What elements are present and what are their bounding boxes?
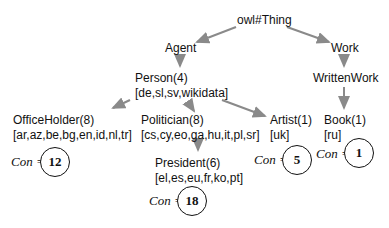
node-writtenwork: WrittenWork — [313, 71, 379, 85]
ontology-diagram: owl#Thing Agent Work Person(4) [de,sl,sv… — [0, 0, 389, 228]
node-artist-langs: [uk] — [270, 128, 289, 142]
edge-person-artist — [222, 100, 265, 116]
edge-person-officeholder — [113, 100, 130, 108]
node-president: President(6) — [155, 156, 220, 170]
node-work: Work — [331, 41, 359, 55]
node-politician-langs: [cs,cy,eo,ga,hu,it,pl,sr] — [141, 128, 260, 142]
node-person: Person(4) — [135, 71, 188, 85]
node-officeholder-langs: [ar,az,be,bg,en,id,nl,tr] — [13, 128, 132, 142]
node-person-langs: [de,sl,sv,wikidata] — [135, 86, 228, 100]
edge-thing-work — [287, 27, 329, 42]
node-owl-thing: owl#Thing — [237, 13, 292, 27]
con-value-book: 1 — [344, 138, 374, 168]
node-artist: Artist(1) — [270, 113, 312, 127]
node-politician: Politician(8) — [141, 113, 204, 127]
node-agent: Agent — [165, 41, 196, 55]
con-value-artist: 5 — [282, 145, 312, 175]
con-value-officeholder: 12 — [40, 147, 70, 177]
node-officeholder: OfficeHolder(8) — [13, 113, 94, 127]
edge-person-politician — [188, 102, 194, 111]
node-book-langs: [ru] — [324, 128, 341, 142]
node-book: Book(1) — [324, 113, 366, 127]
node-president-langs: [el,es,eu,fr,ko,pt] — [155, 171, 243, 185]
con-value-president: 18 — [177, 186, 207, 216]
edge-thing-agent — [197, 27, 236, 42]
